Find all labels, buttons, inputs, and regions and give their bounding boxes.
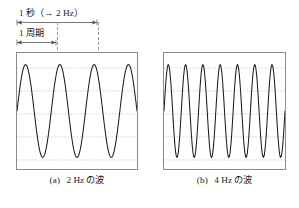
- wave-path-4hz: [164, 65, 285, 158]
- figure-root: 1 秒（→ 2 Hz） 1 周期: [0, 0, 299, 208]
- plot-box-2hz: [16, 52, 138, 170]
- wave-plot-2hz: [17, 53, 137, 169]
- annotation-one-period-label: 1 周期: [19, 29, 44, 38]
- caption-plot-b: (b) 4 Hz の波: [163, 176, 286, 185]
- wave-path-2hz: [17, 65, 137, 158]
- caption-a-text: 2 Hz の波: [67, 175, 105, 185]
- caption-a-tag: (a): [50, 175, 61, 185]
- caption-b-text: 4 Hz の波: [214, 175, 252, 185]
- caption-plot-a: (a) 2 Hz の波: [16, 176, 138, 185]
- plot-box-4hz: [163, 52, 286, 170]
- wave-plot-4hz: [164, 53, 285, 169]
- annotation-one-second-label: 1 秒（→ 2 Hz）: [19, 9, 83, 18]
- caption-b-tag: (b): [197, 175, 208, 185]
- dimension-arrow-one-period: [16, 39, 57, 46]
